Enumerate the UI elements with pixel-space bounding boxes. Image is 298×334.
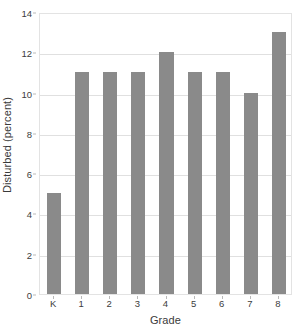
x-axis-title: Grade <box>39 314 292 326</box>
y-axis-tick-mark <box>33 174 36 175</box>
y-axis-tick-mark <box>33 53 36 54</box>
y-axis-tick-mark <box>33 254 36 255</box>
x-axis-tick-label: 5 <box>191 298 196 309</box>
x-axis-tick-label: 3 <box>135 298 140 309</box>
bar <box>216 72 230 294</box>
bar <box>131 72 145 294</box>
x-axis-tick-label: 8 <box>275 298 280 309</box>
y-axis-tick-label: 4 <box>27 209 32 220</box>
y-axis-tick-label: 0 <box>27 290 32 301</box>
bar <box>75 72 89 294</box>
bar <box>272 32 286 294</box>
x-axis-tick-mark <box>250 296 251 299</box>
bar-chart-figure: Disturbed (percent) 02468101214 K1234567… <box>0 0 298 334</box>
x-axis-tick-mark <box>194 296 195 299</box>
y-axis-tick-mark <box>33 295 36 296</box>
bar <box>159 52 173 294</box>
bar <box>188 72 202 294</box>
x-axis-tick-label: 4 <box>163 298 168 309</box>
chart-title-cropped <box>0 0 298 3</box>
y-axis-tick-mark <box>33 93 36 94</box>
y-axis-tick-label: 8 <box>27 128 32 139</box>
x-axis-tick-label: 2 <box>107 298 112 309</box>
y-axis-title: Disturbed (percent) <box>0 0 14 290</box>
y-axis-tick-label: 10 <box>21 88 32 99</box>
x-axis-tick-mark <box>81 296 82 299</box>
x-axis-tick-mark <box>278 296 279 299</box>
x-axis-tick-labels: K12345678 <box>39 296 292 312</box>
x-axis-tick-mark <box>53 296 54 299</box>
y-axis-tick-label: 6 <box>27 169 32 180</box>
y-axis-tick-label: 12 <box>21 48 32 59</box>
y-axis-tick-labels: 02468101214 <box>14 13 36 295</box>
bar <box>244 93 258 294</box>
y-axis-tick-label: 2 <box>27 249 32 260</box>
y-axis-title-text: Disturbed (percent) <box>1 97 13 193</box>
x-axis-tick-label: 7 <box>247 298 252 309</box>
x-axis-tick-label: 1 <box>79 298 84 309</box>
bar <box>103 72 117 294</box>
x-axis-tick-label: 6 <box>219 298 224 309</box>
x-axis-tick-mark <box>109 296 110 299</box>
y-axis-tick-label: 14 <box>21 8 32 19</box>
x-axis-tick-mark <box>166 296 167 299</box>
x-axis-tick-label: K <box>50 298 56 309</box>
x-axis-tick-mark <box>222 296 223 299</box>
y-axis-tick-mark <box>33 214 36 215</box>
y-axis-tick-mark <box>33 133 36 134</box>
plot-area <box>39 13 292 295</box>
bar <box>47 193 61 294</box>
y-axis-tick-mark <box>33 13 36 14</box>
x-axis-tick-mark <box>137 296 138 299</box>
